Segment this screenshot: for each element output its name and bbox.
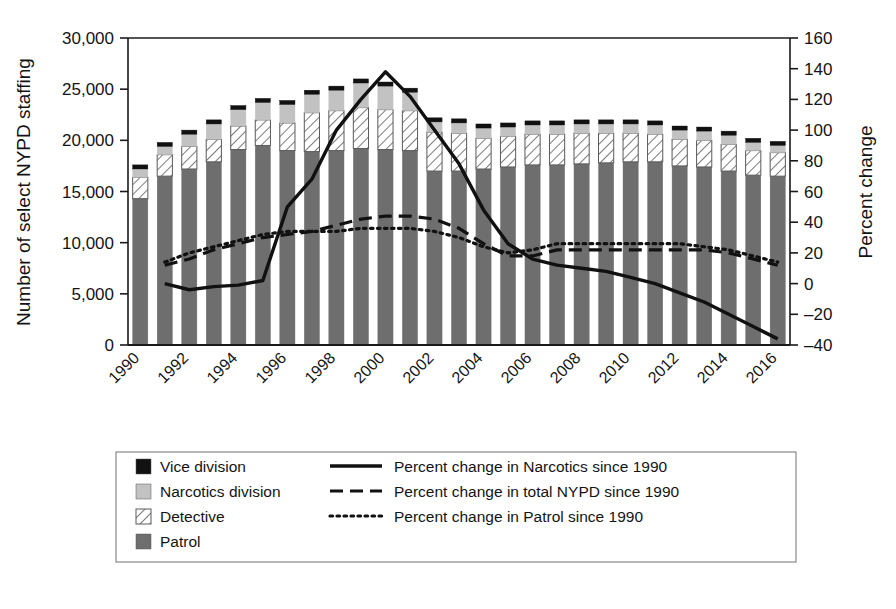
bar-segment-vice: [623, 120, 638, 124]
bar-segment-narcotics: [549, 125, 564, 134]
bar-segment-vice: [525, 121, 540, 125]
bar-segment-vice: [648, 121, 663, 125]
bar-segment-patrol: [549, 165, 564, 345]
bar-segment-detective: [648, 134, 663, 162]
bar-stack: [525, 121, 540, 345]
y-tick-label-left: 25,000: [62, 80, 114, 99]
bar-segment-narcotics: [770, 145, 785, 152]
bar-segment-patrol: [672, 166, 687, 345]
bar-segment-narcotics: [648, 125, 663, 134]
bar-segment-patrol: [648, 162, 663, 345]
y-tick-label-left: 15,000: [62, 183, 114, 202]
bar-segment-patrol: [378, 150, 393, 345]
bar-segment-patrol: [402, 151, 417, 345]
legend-line-label: Percent change in Patrol since 1990: [394, 508, 643, 525]
bar-stack: [378, 82, 393, 345]
bar-segment-narcotics: [304, 94, 319, 112]
bar-segment-patrol: [574, 164, 589, 345]
bar-segment-patrol: [451, 171, 466, 345]
y-tick-label-right: 140: [804, 60, 832, 79]
bar-stack: [549, 121, 564, 345]
bar-segment-vice: [500, 123, 515, 127]
bar-segment-detective: [525, 134, 540, 165]
bar-stack: [476, 124, 491, 345]
legend-patrol-swatch: [136, 534, 151, 549]
bar-segment-vice: [770, 141, 785, 145]
bar-segment-patrol: [353, 149, 368, 345]
bar-segment-detective: [746, 151, 761, 176]
legend-line-label: Percent change in total NYPD since 1990: [394, 483, 680, 500]
bar-segment-vice: [353, 79, 368, 83]
bar-segment-vice: [255, 98, 270, 102]
bar-stack: [746, 138, 761, 345]
y-axis-left-title: Number of select NYPD staffing: [13, 58, 34, 326]
y-tick-label-left: 0: [105, 336, 114, 355]
bar-segment-narcotics: [329, 90, 344, 110]
bar-stack: [353, 79, 368, 345]
y-tick-label-right: 80: [804, 152, 823, 171]
y-tick-label-right: –40: [804, 336, 832, 355]
bar-segment-detective: [500, 136, 515, 167]
bar-segment-detective: [549, 134, 564, 165]
y-tick-label-right: 40: [804, 213, 823, 232]
bar-segment-patrol: [329, 151, 344, 345]
bar-segment-patrol: [427, 171, 442, 345]
bar-segment-vice: [746, 138, 761, 142]
bar-segment-vice: [549, 121, 564, 125]
legend-line-label: Percent change in Narcotics since 1990: [394, 458, 668, 475]
y-axis-right-title: Percent change: [855, 125, 876, 258]
bar-segment-detective: [623, 133, 638, 162]
bar-segment-vice: [206, 120, 221, 124]
bar-segment-patrol: [133, 199, 148, 345]
bar-stack: [697, 127, 712, 345]
y-tick-label-left: 10,000: [62, 234, 114, 253]
bar-stack: [648, 121, 663, 345]
bar-stack: [623, 120, 638, 345]
bar-segment-vice: [599, 120, 614, 124]
y-tick-label-right: 60: [804, 183, 823, 202]
bar-segment-narcotics: [476, 128, 491, 138]
bar-segment-narcotics: [206, 124, 221, 139]
bar-segment-detective: [304, 113, 319, 152]
bar-segment-narcotics: [182, 134, 197, 146]
bar-segment-patrol: [721, 171, 736, 345]
bar-segment-detective: [402, 111, 417, 151]
bar-segment-narcotics: [525, 125, 540, 134]
legend-detective-swatch: [136, 509, 151, 524]
bar-segment-vice: [476, 124, 491, 128]
bar-segment-detective: [353, 108, 368, 149]
bar-segment-narcotics: [697, 131, 712, 140]
bar-segment-narcotics: [255, 102, 270, 119]
bar-segment-vice: [329, 86, 344, 90]
y-tick-label-right: 100: [804, 121, 832, 140]
bar-segment-vice: [451, 119, 466, 123]
bar-segment-narcotics: [157, 146, 172, 154]
bar-segment-narcotics: [672, 130, 687, 139]
bar-segment-detective: [206, 139, 221, 162]
legend-swatch-label: Detective: [160, 508, 225, 525]
bar-segment-narcotics: [500, 127, 515, 136]
bar-segment-detective: [231, 126, 246, 150]
bar-segment-patrol: [599, 163, 614, 345]
bar-segment-vice: [574, 120, 589, 124]
bar-segment-narcotics: [721, 135, 736, 144]
bar-segment-detective: [697, 140, 712, 167]
bar-segment-patrol: [231, 150, 246, 345]
y-tick-label-right: 160: [804, 29, 832, 48]
y-tick-label-right: –20: [804, 305, 832, 324]
chart-legend: Vice divisionNarcotics divisionDetective…: [116, 452, 796, 562]
bar-segment-detective: [476, 138, 491, 169]
bar-stack: [255, 98, 270, 345]
bar-segment-detective: [574, 133, 589, 164]
bar-stack: [157, 142, 172, 345]
bar-segment-narcotics: [231, 110, 246, 126]
bar-segment-detective: [157, 155, 172, 176]
bar-segment-vice: [133, 165, 148, 169]
bar-segment-vice: [672, 126, 687, 130]
legend-swatch-label: Narcotics division: [160, 483, 281, 500]
y-tick-label-left: 20,000: [62, 131, 114, 150]
bar-segment-vice: [721, 131, 736, 135]
legend-vice-swatch: [136, 459, 151, 474]
bar-segment-vice: [182, 130, 197, 134]
chart-figure: 05,00010,00015,00020,00025,00030,000 –40…: [0, 0, 896, 609]
